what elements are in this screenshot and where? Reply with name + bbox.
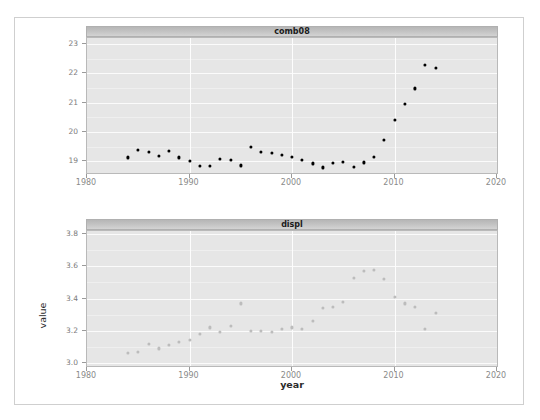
data-point xyxy=(126,352,129,355)
data-point xyxy=(383,139,386,142)
data-point xyxy=(383,278,386,281)
data-point xyxy=(219,157,222,160)
y-axis-tick-label: 3.8 xyxy=(50,229,78,238)
data-point xyxy=(249,329,252,332)
y-axis-tick-label: 3.2 xyxy=(50,325,78,334)
gridline-vertical xyxy=(292,231,293,366)
y-axis-tick-label: 21 xyxy=(50,97,78,106)
data-point xyxy=(249,145,252,148)
y-axis-tick-mark xyxy=(82,160,86,161)
strip-header-comb08: comb08 xyxy=(86,26,498,37)
x-axis-tick-label: 2000 xyxy=(281,178,301,187)
gridline-vertical xyxy=(190,38,191,173)
y-axis-tick-mark xyxy=(82,43,86,44)
y-axis-tick-label: 20 xyxy=(50,126,78,135)
data-point xyxy=(331,161,334,164)
y-axis-tick-label: 3.0 xyxy=(50,357,78,366)
y-axis-tick-mark xyxy=(82,330,86,331)
panel-displ: displ 3.03.23.43.63.81980199020002010202… xyxy=(86,219,498,367)
data-point xyxy=(342,300,345,303)
data-point xyxy=(403,302,406,305)
data-point xyxy=(321,166,324,169)
plot-area-displ xyxy=(86,230,498,367)
data-point xyxy=(342,160,345,163)
y-axis-tick-label: 23 xyxy=(50,38,78,47)
data-point xyxy=(372,268,375,271)
data-point xyxy=(178,156,181,159)
x-axis-tick-label: 1980 xyxy=(76,178,96,187)
data-point xyxy=(188,339,191,342)
data-point xyxy=(229,324,232,327)
y-axis-tick-label: 3.6 xyxy=(50,261,78,270)
x-axis-tick-label: 1990 xyxy=(178,178,198,187)
data-point xyxy=(352,166,355,169)
cutoff-header-text: ·· · xyxy=(160,0,183,6)
y-axis-tick-label: 3.4 xyxy=(50,293,78,302)
data-point xyxy=(178,340,181,343)
y-axis-tick-mark xyxy=(82,362,86,363)
x-axis-tick-label: 2010 xyxy=(383,178,403,187)
data-point xyxy=(403,102,406,105)
data-point xyxy=(393,118,396,121)
data-point xyxy=(352,276,355,279)
y-axis-tick-mark xyxy=(82,102,86,103)
data-point xyxy=(198,332,201,335)
data-point xyxy=(167,149,170,152)
y-axis-label: value xyxy=(37,286,48,346)
plot-area-comb08 xyxy=(86,37,498,174)
strip-header-displ: displ xyxy=(86,219,498,230)
strip-label-displ: displ xyxy=(281,221,303,229)
data-point xyxy=(147,150,150,153)
data-point xyxy=(362,270,365,273)
gridline-vertical xyxy=(395,231,396,366)
data-point xyxy=(219,331,222,334)
data-point xyxy=(157,347,160,350)
y-axis-tick-label: 19 xyxy=(50,156,78,165)
data-point xyxy=(413,87,416,90)
y-axis-tick-label: 22 xyxy=(50,68,78,77)
y-axis-tick-mark xyxy=(82,265,86,266)
gridline-vertical xyxy=(395,38,396,173)
data-point xyxy=(126,156,129,159)
data-point xyxy=(208,164,211,167)
data-point xyxy=(137,350,140,353)
gridline-vertical xyxy=(292,38,293,173)
data-point xyxy=(362,161,365,164)
data-point xyxy=(290,156,293,159)
data-point xyxy=(260,150,263,153)
data-point xyxy=(270,151,273,154)
data-point xyxy=(239,302,242,305)
panel-comb08: comb08 192021222319801990200020102020 xyxy=(86,26,498,174)
data-point xyxy=(208,326,211,329)
data-point xyxy=(280,154,283,157)
data-point xyxy=(424,64,427,67)
x-axis-label: year xyxy=(86,379,498,390)
data-point xyxy=(321,307,324,310)
y-axis-tick-mark xyxy=(82,233,86,234)
data-point xyxy=(413,305,416,308)
data-point xyxy=(157,154,160,157)
data-point xyxy=(311,319,314,322)
data-point xyxy=(290,326,293,329)
data-point xyxy=(147,342,150,345)
gridline-vertical xyxy=(190,231,191,366)
y-axis-tick-mark xyxy=(82,72,86,73)
data-point xyxy=(434,66,437,69)
data-point xyxy=(239,164,242,167)
data-point xyxy=(198,165,201,168)
x-axis-tick-label: 2020 xyxy=(486,178,506,187)
cutoff-header-sliver: ·· · xyxy=(0,0,540,9)
strip-label-comb08: comb08 xyxy=(274,28,309,36)
data-point xyxy=(372,155,375,158)
data-point xyxy=(331,305,334,308)
data-point xyxy=(260,329,263,332)
plot-device-frame: comb08 192021222319801990200020102020 di… xyxy=(14,17,524,405)
y-axis-tick-mark xyxy=(82,298,86,299)
data-point xyxy=(137,148,140,151)
data-point xyxy=(270,331,273,334)
y-axis-tick-mark xyxy=(82,131,86,132)
data-point xyxy=(311,162,314,165)
